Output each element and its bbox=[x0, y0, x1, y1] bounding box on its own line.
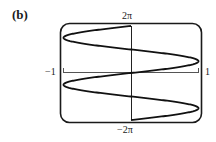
plot-area bbox=[0, 0, 216, 142]
